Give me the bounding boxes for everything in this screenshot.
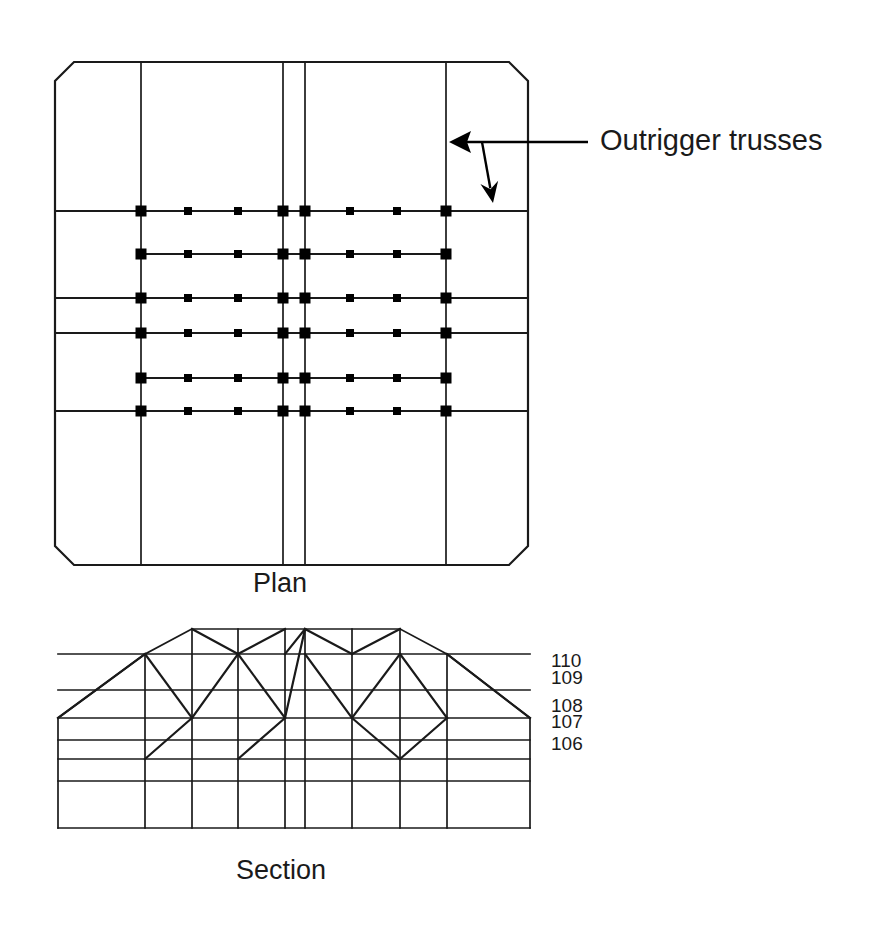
- plan-node-r2-c4: [278, 249, 289, 260]
- section-diagonal-8: [238, 718, 285, 759]
- plan-node-r4-c2: [184, 329, 192, 337]
- section-level-label-106: 106: [551, 733, 583, 754]
- plan-node-r2-c1: [136, 249, 147, 260]
- figure-captions: PlanSection: [236, 568, 326, 885]
- plan-node-r6-c4: [278, 406, 289, 417]
- plan-node-r4-c5: [300, 328, 311, 339]
- section-level-label-107: 107: [551, 711, 583, 732]
- plan-node-r1-c7: [393, 207, 401, 215]
- plan-node-r5-c4: [278, 373, 289, 384]
- plan-node-r3-c4: [278, 293, 289, 304]
- plan-node-r4-c4: [278, 328, 289, 339]
- plan-node-r5-c8: [441, 373, 452, 384]
- section-diagonal-15: [352, 718, 400, 759]
- plan-node-r2-c7: [393, 250, 401, 258]
- section-level-label-109: 109: [551, 667, 583, 688]
- plan-node-r3-c7: [393, 294, 401, 302]
- plan-node-r2-c5: [300, 249, 311, 260]
- section-diagonal-3: [192, 629, 238, 654]
- structural-diagram-canvas: Outrigger trusses 110109108107106 PlanSe…: [0, 0, 885, 930]
- plan-node-r4-c3: [234, 329, 242, 337]
- plan-node-r3-c3: [234, 294, 242, 302]
- plan-node-r6-c2: [184, 407, 192, 415]
- plan-node-r5-c3: [234, 374, 242, 382]
- plan-node-r2-c8: [441, 249, 452, 260]
- section-diagonal-13: [305, 629, 352, 654]
- plan-node-r1-c2: [184, 207, 192, 215]
- plan-node-r6-c1: [136, 406, 147, 417]
- annotation-callouts: Outrigger trusses: [449, 124, 822, 203]
- plan-node-r2-c3: [234, 250, 242, 258]
- section-diagonal-17: [400, 718, 447, 759]
- plan-node-r1-c1: [136, 206, 147, 217]
- section-diagonal-4: [238, 629, 285, 654]
- plan-node-r3-c1: [136, 293, 147, 304]
- plan-node-r1-c4: [278, 206, 289, 217]
- section-diagonal-12: [352, 654, 400, 718]
- plan-node-r3-c6: [346, 294, 354, 302]
- section-diagonal-14: [352, 629, 400, 654]
- figure-root: Outrigger trusses 110109108107106 PlanSe…: [0, 0, 885, 930]
- section-roof-slope-3: [400, 629, 447, 654]
- plan-node-r3-c2: [184, 294, 192, 302]
- section-diagonal-6: [192, 654, 238, 718]
- plan-node-r4-c7: [393, 329, 401, 337]
- section-diagonal-7: [238, 654, 285, 718]
- plan-node-r6-c6: [346, 407, 354, 415]
- plan-node-r6-c8: [441, 406, 452, 417]
- plan-node-r5-c1: [136, 373, 147, 384]
- plan-node-r4-c8: [441, 328, 452, 339]
- plan-node-r1-c5: [300, 206, 311, 217]
- plan-node-r6-c7: [393, 407, 401, 415]
- plan-node-r5-c2: [184, 374, 192, 382]
- section-diagonal-11: [305, 654, 352, 718]
- plan-node-r2-c6: [346, 250, 354, 258]
- plan-node-r1-c6: [346, 207, 354, 215]
- section-diagonal-2: [145, 654, 192, 718]
- plan-node-r6-c3: [234, 407, 242, 415]
- outrigger-callout-label: Outrigger trusses: [600, 124, 822, 156]
- outrigger-callout-branch-leader: [482, 142, 490, 188]
- plan-drawing: [55, 62, 528, 565]
- plan-node-r3-c8: [441, 293, 452, 304]
- plan-node-r3-c5: [300, 293, 311, 304]
- section-caption: Section: [236, 855, 326, 885]
- plan-node-r5-c6: [346, 374, 354, 382]
- plan-caption: Plan: [253, 568, 307, 598]
- plan-node-r5-c7: [393, 374, 401, 382]
- section-roof-slope-2: [145, 629, 192, 654]
- plan-node-r2-c2: [184, 250, 192, 258]
- plan-node-r1-c3: [234, 207, 242, 215]
- section-diagonal-5: [145, 718, 192, 759]
- section-diagonal-1: [58, 654, 145, 718]
- section-drawing: 110109108107106: [58, 629, 583, 828]
- plan-node-r4-c1: [136, 328, 147, 339]
- section-diagonal-16: [400, 654, 447, 718]
- plan-node-r4-c6: [346, 329, 354, 337]
- plan-node-r1-c8: [441, 206, 452, 217]
- plan-node-r5-c5: [300, 373, 311, 384]
- plan-node-r6-c5: [300, 406, 311, 417]
- section-diagonal-18: [447, 654, 530, 718]
- plan-outline: [55, 62, 528, 565]
